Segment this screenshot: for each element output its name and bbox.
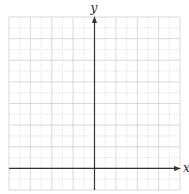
- axes: [9, 16, 181, 190]
- y-axis-label: y: [90, 1, 98, 15]
- coordinate-grid: x y: [0, 0, 189, 194]
- x-axis-label: x: [183, 161, 189, 175]
